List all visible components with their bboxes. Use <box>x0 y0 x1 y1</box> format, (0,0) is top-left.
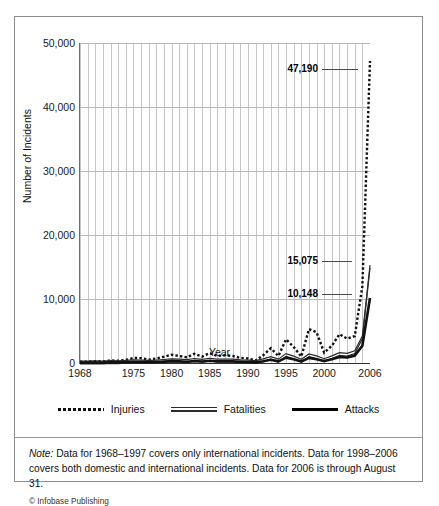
legend-item-fatalities: Fatalities <box>171 403 266 415</box>
x-axis-label: Year <box>15 346 424 358</box>
y-axis-tick-label: 50,000 <box>43 38 75 49</box>
note-body: Data for 1968–1997 covers only internati… <box>29 448 398 489</box>
chart-figure: Number of Incidents 010,00020,00030,0004… <box>14 16 423 482</box>
leader-line <box>322 294 352 295</box>
leader-line <box>322 69 358 70</box>
x-axis-tick-label: 2000 <box>313 368 336 379</box>
x-axis-tick-label: 1980 <box>160 368 183 379</box>
legend-swatch-solid-icon <box>292 405 338 414</box>
data-label-fatalities: 15,075 <box>287 256 318 266</box>
credit-line: © Infobase Publishing <box>29 497 408 506</box>
leader-line <box>322 261 352 262</box>
note-prefix: Note: <box>29 448 53 459</box>
legend-label: Attacks <box>345 403 379 415</box>
x-axis-tick-label: 1985 <box>198 368 221 379</box>
note-box: Note: Data for 1968–1997 covers only int… <box>15 437 422 506</box>
x-axis-tick-label: 1968 <box>68 368 91 379</box>
y-axis-tick-label: 20,000 <box>43 230 75 241</box>
data-label-injuries: 47,190 <box>287 64 318 74</box>
legend-label: Fatalities <box>224 403 266 415</box>
chart-legend: InjuriesFatalitiesAttacks <box>15 403 422 415</box>
plot-wrapper: Number of Incidents 010,00020,00030,0004… <box>15 17 424 372</box>
legend-item-attacks: Attacks <box>292 403 379 415</box>
x-axis-tick-label: 1975 <box>122 368 145 379</box>
legend-item-injuries: Injuries <box>58 403 145 415</box>
y-axis-label: Number of Incidents <box>21 109 33 203</box>
y-axis-tick-label: 30,000 <box>43 166 75 177</box>
legend-swatch-dotted-icon <box>58 405 104 414</box>
x-axis-tick-label: 1990 <box>236 368 259 379</box>
legend-swatch-double-icon <box>171 405 217 414</box>
legend-label: Injuries <box>111 403 145 415</box>
data-series-layer <box>80 43 370 363</box>
plot-area: 010,00020,00030,00040,00050,000196819751… <box>79 43 370 364</box>
note-text: Note: Data for 1968–1997 covers only int… <box>29 447 408 491</box>
x-axis-tick-label: 1995 <box>274 368 297 379</box>
x-axis-tick-label: 2006 <box>358 368 381 379</box>
series-line-injuries <box>80 61 370 362</box>
data-label-attacks: 10,148 <box>287 289 318 299</box>
y-axis-tick-label: 40,000 <box>43 102 75 113</box>
y-axis-tick-label: 10,000 <box>43 294 75 305</box>
